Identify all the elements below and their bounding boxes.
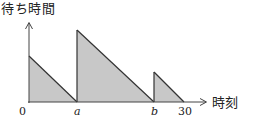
y-axis-label: 待ち時間 [1, 2, 55, 15]
x-axis-label: 時刻 [212, 96, 238, 109]
x-tick-b: b [151, 106, 158, 117]
x-tick-a: a [74, 106, 81, 117]
x-tick-30: 30 [178, 106, 192, 117]
x-tick-0: 0 [19, 106, 26, 117]
